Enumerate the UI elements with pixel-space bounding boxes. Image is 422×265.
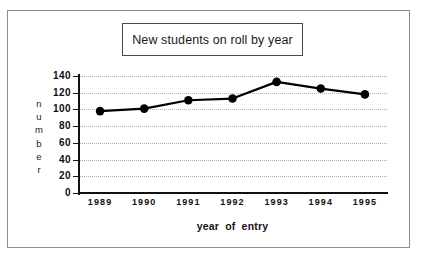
y-tick-mark [73, 160, 78, 161]
x-tick-label: 1990 [132, 197, 156, 207]
chart-title-box: New students on roll by year [122, 23, 303, 56]
x-tick-label: 1991 [176, 197, 200, 207]
y-axis-label-letter: e [36, 150, 41, 163]
y-axis-label-letter: u [36, 110, 41, 123]
y-tick-label: 140 [53, 70, 71, 81]
y-tick-label: 60 [59, 137, 71, 148]
y-tick-label: 100 [53, 103, 71, 114]
chart-screenshot: New students on roll by year 14012010080… [0, 0, 422, 265]
x-tick-label: 1993 [264, 197, 288, 207]
line-series [78, 76, 387, 193]
data-point-marker [184, 96, 193, 105]
y-tick-mark [73, 76, 78, 77]
y-axis-label-letter: r [37, 163, 40, 176]
y-axis-label-letter: n [36, 97, 41, 110]
y-tick-mark [73, 143, 78, 144]
plot-area [78, 76, 387, 193]
x-tick-label: 1995 [353, 197, 377, 207]
x-tick-label: 1994 [309, 197, 333, 207]
y-axis-label-letter: b [36, 137, 41, 150]
data-point-marker [361, 90, 370, 99]
y-tick-label: 20 [59, 170, 71, 181]
y-axis-label: number [33, 97, 45, 176]
data-point-marker [228, 94, 237, 103]
x-tick-label: 1989 [88, 197, 112, 207]
y-axis-label-letter: m [35, 123, 43, 136]
y-tick-mark [73, 109, 78, 110]
data-point-marker [140, 104, 149, 113]
y-tick-label: 120 [53, 87, 71, 98]
y-tick-mark [73, 176, 78, 177]
x-axis-label: year of entry [78, 220, 387, 232]
y-tick-mark [73, 193, 78, 194]
data-point-marker [316, 84, 325, 93]
data-point-marker [96, 107, 105, 116]
y-tick-mark [73, 126, 78, 127]
y-tick-mark [73, 93, 78, 94]
chart-title: New students on roll by year [132, 33, 293, 47]
y-tick-label: 40 [59, 154, 71, 165]
x-axis-line [78, 192, 388, 194]
data-point-marker [272, 78, 281, 87]
y-tick-label: 0 [65, 187, 71, 198]
x-tick-label: 1992 [220, 197, 244, 207]
y-axis-line [78, 74, 80, 195]
y-tick-label: 80 [59, 120, 71, 131]
